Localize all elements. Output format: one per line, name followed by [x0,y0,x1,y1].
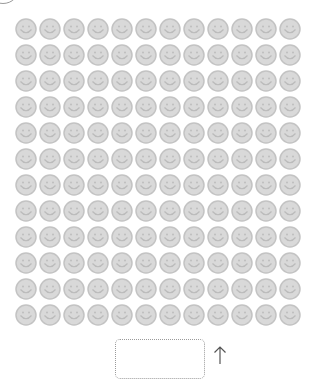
smiley-face-icon[interactable] [111,44,133,66]
smiley-face-icon[interactable] [63,226,85,248]
smiley-face-icon[interactable] [207,122,229,144]
smiley-face-icon[interactable] [159,278,181,300]
smiley-face-icon[interactable] [279,200,301,222]
smiley-face-icon[interactable] [183,70,205,92]
dotted-drop-box[interactable] [115,339,205,379]
smiley-face-icon[interactable] [231,304,253,326]
smiley-face-icon[interactable] [111,226,133,248]
smiley-face-icon[interactable] [279,304,301,326]
smiley-face-icon[interactable] [159,18,181,40]
smiley-face-icon[interactable] [183,18,205,40]
smiley-face-icon[interactable] [231,252,253,274]
smiley-face-icon[interactable] [87,44,109,66]
smiley-face-icon[interactable] [255,96,277,118]
smiley-face-icon[interactable] [135,174,157,196]
smiley-face-icon[interactable] [87,226,109,248]
smiley-face-icon[interactable] [87,174,109,196]
smiley-face-icon[interactable] [135,18,157,40]
smiley-face-icon[interactable] [207,226,229,248]
smiley-face-icon[interactable] [183,226,205,248]
smiley-face-icon[interactable] [63,18,85,40]
smiley-face-icon[interactable] [63,174,85,196]
smiley-face-icon[interactable] [255,278,277,300]
smiley-face-icon[interactable] [87,252,109,274]
smiley-face-icon[interactable] [135,226,157,248]
smiley-face-icon[interactable] [231,148,253,170]
smiley-face-icon[interactable] [15,96,37,118]
smiley-face-icon[interactable] [135,96,157,118]
smiley-face-icon[interactable] [111,18,133,40]
smiley-face-icon[interactable] [15,304,37,326]
smiley-face-icon[interactable] [39,148,61,170]
smiley-face-icon[interactable] [207,70,229,92]
smiley-face-icon[interactable] [135,252,157,274]
smiley-face-icon[interactable] [39,96,61,118]
smiley-face-icon[interactable] [159,174,181,196]
smiley-face-icon[interactable] [231,44,253,66]
smiley-face-icon[interactable] [39,18,61,40]
smiley-face-icon[interactable] [87,278,109,300]
smiley-face-icon[interactable] [207,96,229,118]
smiley-face-icon[interactable] [15,18,37,40]
smiley-face-icon[interactable] [159,122,181,144]
smiley-face-icon[interactable] [63,200,85,222]
smiley-face-icon[interactable] [279,252,301,274]
smiley-face-icon[interactable] [279,18,301,40]
smiley-face-icon[interactable] [207,278,229,300]
smiley-face-icon[interactable] [111,200,133,222]
smiley-face-icon[interactable] [87,200,109,222]
smiley-face-icon[interactable] [63,70,85,92]
smiley-face-icon[interactable] [111,70,133,92]
smiley-face-icon[interactable] [207,174,229,196]
smiley-face-icon[interactable] [279,70,301,92]
smiley-face-icon[interactable] [183,278,205,300]
smiley-face-icon[interactable] [135,200,157,222]
smiley-face-icon[interactable] [255,148,277,170]
smiley-face-icon[interactable] [39,70,61,92]
smiley-face-icon[interactable] [39,174,61,196]
smiley-face-icon[interactable] [39,278,61,300]
smiley-face-icon[interactable] [135,278,157,300]
smiley-face-icon[interactable] [279,226,301,248]
smiley-face-icon[interactable] [231,226,253,248]
smiley-face-icon[interactable] [39,304,61,326]
smiley-face-icon[interactable] [183,252,205,274]
smiley-face-icon[interactable] [159,148,181,170]
smiley-face-icon[interactable] [87,70,109,92]
smiley-face-icon[interactable] [279,122,301,144]
smiley-face-icon[interactable] [87,122,109,144]
smiley-face-icon[interactable] [159,70,181,92]
smiley-face-icon[interactable] [207,18,229,40]
smiley-face-icon[interactable] [15,148,37,170]
smiley-face-icon[interactable] [111,96,133,118]
smiley-face-icon[interactable] [255,226,277,248]
smiley-face-icon[interactable] [207,304,229,326]
smiley-face-icon[interactable] [15,200,37,222]
smiley-face-icon[interactable] [63,96,85,118]
smiley-face-icon[interactable] [255,44,277,66]
smiley-face-icon[interactable] [111,252,133,274]
smiley-face-icon[interactable] [159,226,181,248]
smiley-face-icon[interactable] [15,174,37,196]
smiley-face-icon[interactable] [15,70,37,92]
smiley-face-icon[interactable] [63,278,85,300]
smiley-face-icon[interactable] [255,252,277,274]
smiley-face-icon[interactable] [135,148,157,170]
smiley-face-icon[interactable] [39,44,61,66]
smiley-face-icon[interactable] [63,304,85,326]
smiley-face-icon[interactable] [111,174,133,196]
smiley-face-icon[interactable] [87,96,109,118]
smiley-face-icon[interactable] [39,252,61,274]
smiley-face-icon[interactable] [255,174,277,196]
smiley-face-icon[interactable] [231,174,253,196]
smiley-face-icon[interactable] [15,44,37,66]
smiley-face-icon[interactable] [63,148,85,170]
smiley-face-icon[interactable] [183,44,205,66]
smiley-face-icon[interactable] [255,200,277,222]
smiley-face-icon[interactable] [255,70,277,92]
smiley-face-icon[interactable] [231,200,253,222]
smiley-face-icon[interactable] [63,44,85,66]
smiley-face-icon[interactable] [159,96,181,118]
smiley-face-icon[interactable] [279,96,301,118]
smiley-face-icon[interactable] [39,200,61,222]
